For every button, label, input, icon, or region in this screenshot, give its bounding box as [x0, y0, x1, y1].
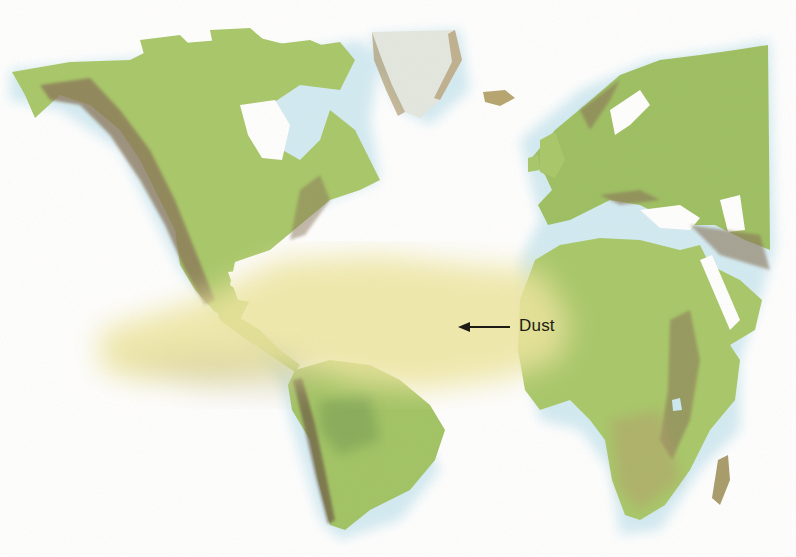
dust-arrow-icon: [466, 326, 510, 328]
relief-map: [0, 0, 796, 557]
dust-label: Dust: [519, 316, 555, 336]
map-canvas: Dust: [0, 0, 796, 557]
